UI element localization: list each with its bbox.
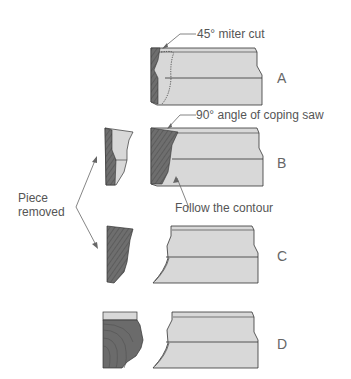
step-label-d: D bbox=[277, 336, 287, 352]
piece-removed-b bbox=[105, 128, 133, 185]
follow-contour-label: Follow the contour bbox=[175, 201, 273, 215]
piece-removed-c bbox=[107, 226, 133, 283]
molding-a bbox=[151, 48, 262, 105]
molding-d bbox=[153, 312, 258, 368]
miter-cut-label: 45° miter cut bbox=[197, 27, 265, 41]
profile-piece-d bbox=[103, 312, 143, 368]
piece-removed-label-1: Piece bbox=[18, 191, 48, 205]
step-label-b: B bbox=[277, 155, 286, 171]
piece-removed-label-2: removed bbox=[18, 205, 65, 219]
step-label-c: C bbox=[277, 248, 287, 264]
step-label-a: A bbox=[277, 70, 286, 86]
molding-c bbox=[153, 226, 258, 283]
molding-b bbox=[151, 128, 263, 186]
coping-angle-label: 90° angle of coping saw bbox=[196, 108, 324, 122]
coping-diagram bbox=[0, 0, 351, 379]
